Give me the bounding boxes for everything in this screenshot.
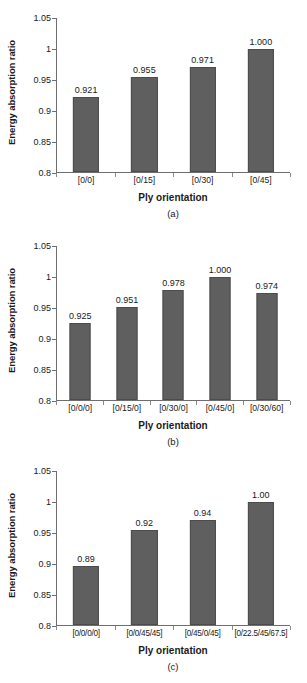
bar-value-label-b-2: 0.978 bbox=[162, 279, 185, 288]
y-axis-tick-mark-c-3 bbox=[52, 533, 56, 534]
y-axis-title-text-a: Energy absorption ratio bbox=[6, 40, 17, 145]
bar-slot-b-0: 0.925 bbox=[57, 246, 104, 400]
y-axis-title-text-c: Energy absorption ratio bbox=[6, 493, 17, 598]
y-axis-title-a: Energy absorption ratio bbox=[2, 12, 20, 172]
x-axis-title-c: Ply orientation bbox=[56, 645, 290, 656]
x-axis-category-label-a-2: [0/30] bbox=[174, 176, 232, 185]
x-axis-title-a: Ply orientation bbox=[56, 192, 290, 203]
bar-value-label-b-3: 1.000 bbox=[209, 266, 232, 275]
bar-value-label-c-1: 0.92 bbox=[136, 519, 154, 528]
bar-b-0[interactable] bbox=[70, 323, 91, 400]
x-axis-category-label-c-3: [0/22.5/45/67.5] bbox=[232, 629, 290, 638]
x-axis-categories-b: [0/0/0][0/15/0][0/30/0][0/45/0][0/30/60] bbox=[57, 404, 290, 413]
y-axis-tick-mark-c-1 bbox=[52, 595, 56, 596]
bar-slot-c-1: 0.92 bbox=[115, 471, 173, 625]
x-axis-category-label-b-3: [0/45/0] bbox=[197, 404, 244, 413]
bar-value-label-c-2: 0.94 bbox=[194, 509, 212, 518]
bar-c-1[interactable] bbox=[131, 530, 157, 625]
bar-b-1[interactable] bbox=[116, 307, 137, 400]
bar-value-label-b-0: 0.925 bbox=[69, 312, 92, 321]
bar-series-a: 0.9210.9550.9711.000 bbox=[57, 18, 290, 172]
y-axis-title-text-b: Energy absorption ratio bbox=[6, 268, 17, 373]
chart-panel-a: Energy absorption ratio 0.80.850.90.9511… bbox=[0, 0, 307, 228]
bar-slot-b-4: 0.974 bbox=[243, 246, 290, 400]
x-axis-categories-c: [0/0/0/0][0/0/45/45][0/45/0/45][0/22.5/4… bbox=[57, 629, 290, 638]
bar-slot-b-1: 0.951 bbox=[104, 246, 151, 400]
bar-slot-a-2: 0.971 bbox=[174, 18, 232, 172]
y-axis-tick-mark-a-1 bbox=[52, 142, 56, 143]
y-axis-title-c: Energy absorption ratio bbox=[2, 465, 20, 625]
x-axis-categories-a: [0/0][0/15][0/30][0/45] bbox=[57, 176, 290, 185]
bar-value-label-a-1: 0.955 bbox=[133, 66, 156, 75]
bar-value-label-a-3: 1.000 bbox=[250, 38, 273, 47]
bar-series-b: 0.9250.9510.9781.0000.974 bbox=[57, 246, 290, 400]
bar-c-2[interactable] bbox=[190, 520, 216, 625]
y-axis-tick-mark-a-5 bbox=[52, 18, 56, 19]
y-axis-tick-mark-b-5 bbox=[52, 246, 56, 247]
x-axis-category-label-a-0: [0/0] bbox=[57, 176, 115, 185]
bar-slot-c-2: 0.94 bbox=[174, 471, 232, 625]
panel-caption-b: (b) bbox=[56, 436, 290, 447]
x-axis-category-label-b-1: [0/15/0] bbox=[104, 404, 151, 413]
bar-slot-c-3: 1.00 bbox=[232, 471, 290, 625]
x-axis-category-label-a-3: [0/45] bbox=[232, 176, 290, 185]
bar-b-2[interactable] bbox=[163, 290, 184, 400]
x-axis-tick-mark-c-4 bbox=[290, 626, 291, 630]
x-axis-tick-mark-a-4 bbox=[290, 173, 291, 177]
x-axis-category-label-b-2: [0/30/0] bbox=[150, 404, 197, 413]
bar-slot-b-2: 0.978 bbox=[150, 246, 197, 400]
chart-panel-b: Energy absorption ratio 0.80.850.90.9511… bbox=[0, 228, 307, 453]
x-axis-title-b: Ply orientation bbox=[56, 420, 290, 431]
x-axis-category-label-b-0: [0/0/0] bbox=[57, 404, 104, 413]
x-axis-category-label-c-0: [0/0/0/0] bbox=[57, 629, 115, 638]
y-axis-tick-mark-c-2 bbox=[52, 564, 56, 565]
bar-value-label-c-0: 0.89 bbox=[77, 555, 95, 564]
panel-caption-c: (c) bbox=[56, 661, 290, 672]
y-axis-tick-mark-a-4 bbox=[52, 49, 56, 50]
bar-value-label-a-0: 0.921 bbox=[75, 86, 98, 95]
figure-bar-charts: Energy absorption ratio 0.80.850.90.9511… bbox=[0, 0, 307, 683]
x-axis-category-label-a-1: [0/15] bbox=[115, 176, 173, 185]
x-axis-category-label-c-1: [0/0/45/45] bbox=[115, 629, 173, 638]
y-axis-tick-mark-a-3 bbox=[52, 80, 56, 81]
bar-slot-a-3: 1.000 bbox=[232, 18, 290, 172]
bar-a-0[interactable] bbox=[73, 97, 99, 172]
bar-series-c: 0.890.920.941.00 bbox=[57, 471, 290, 625]
y-axis-title-b: Energy absorption ratio bbox=[2, 240, 20, 400]
chart-panel-c: Energy absorption ratio 0.80.850.90.9511… bbox=[0, 453, 307, 683]
x-axis-category-label-b-4: [0/30/60] bbox=[243, 404, 290, 413]
bar-a-3[interactable] bbox=[248, 49, 274, 172]
bar-value-label-b-1: 0.951 bbox=[116, 296, 139, 305]
x-axis-category-label-c-2: [0/45/0/45] bbox=[174, 629, 232, 638]
plot-area-c: 0.80.850.90.9511.050.890.920.941.00 bbox=[56, 471, 290, 626]
bar-b-3[interactable] bbox=[210, 277, 231, 400]
y-axis-tick-mark-b-3 bbox=[52, 308, 56, 309]
plot-area-a: 0.80.850.90.9511.050.9210.9550.9711.000 bbox=[56, 18, 290, 173]
bar-b-4[interactable] bbox=[256, 293, 277, 400]
bar-c-3[interactable] bbox=[248, 502, 274, 625]
y-axis-tick-mark-b-2 bbox=[52, 339, 56, 340]
y-axis-tick-mark-b-4 bbox=[52, 277, 56, 278]
bar-value-label-c-3: 1.00 bbox=[252, 491, 270, 500]
y-axis-tick-mark-c-5 bbox=[52, 471, 56, 472]
bar-slot-c-0: 0.89 bbox=[57, 471, 115, 625]
bar-a-1[interactable] bbox=[131, 77, 157, 172]
bar-value-label-a-2: 0.971 bbox=[191, 56, 214, 65]
bar-value-label-b-4: 0.974 bbox=[255, 282, 278, 291]
bar-c-0[interactable] bbox=[73, 566, 99, 625]
y-axis-tick-mark-a-2 bbox=[52, 111, 56, 112]
bar-slot-a-1: 0.955 bbox=[115, 18, 173, 172]
y-axis-tick-mark-b-1 bbox=[52, 370, 56, 371]
panel-caption-a: (a) bbox=[56, 208, 290, 219]
plot-area-b: 0.80.850.90.9511.050.9250.9510.9781.0000… bbox=[56, 246, 290, 401]
bar-a-2[interactable] bbox=[190, 67, 216, 172]
bar-slot-b-3: 1.000 bbox=[197, 246, 244, 400]
x-axis-tick-mark-b-5 bbox=[290, 401, 291, 405]
bar-slot-a-0: 0.921 bbox=[57, 18, 115, 172]
y-axis-tick-mark-c-4 bbox=[52, 502, 56, 503]
